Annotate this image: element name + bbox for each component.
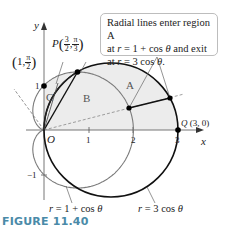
point-1-pi-over-2-label: (1,π2) [12, 54, 36, 71]
x-axis-label: x [201, 136, 206, 147]
point-P-label: P(32,π3) [52, 36, 84, 53]
figure-caption: FIGURE 11.40 [2, 215, 89, 228]
region-A-label: A [126, 80, 134, 91]
y-tick-label-neg1: −1 [27, 171, 37, 180]
origin-label: O [47, 134, 55, 145]
y-tick-label-1: 1 [35, 82, 40, 91]
y-axis-label: y [34, 20, 39, 31]
point-enter [126, 105, 131, 110]
point-P-name: P [52, 37, 59, 49]
point-exit [167, 95, 172, 100]
region-C-label: C [46, 92, 53, 103]
point-P [75, 69, 81, 75]
circle-label: r = 3 cos θ [138, 204, 183, 215]
y-axis-arrow-icon [41, 22, 47, 30]
point-1-pi-over-2 [41, 83, 47, 89]
callout-line-3: at r = 3 cos θ. [107, 55, 217, 68]
point-Q [175, 127, 181, 133]
dashed-ray-upper-left [14, 89, 44, 130]
x-tick-label-2: 2 [131, 136, 136, 145]
x-tick-label-1: 1 [86, 136, 91, 145]
point-Q-label: Q (3, 0) [181, 119, 209, 128]
region-B-label: B [83, 93, 90, 104]
x-tick-label-3: 3 [175, 136, 180, 145]
callout-box: Radial lines enter region A at r = 1 + c… [100, 13, 218, 56]
callout-line-1: Radial lines enter region A [107, 16, 217, 42]
callout-line-2: at r = 1 + cos θ and exit [107, 42, 217, 55]
cardioid-label: r = 1 + cos θ [49, 204, 102, 215]
circle-label-pointer [147, 187, 155, 203]
cardioid-label-pointer [66, 186, 72, 203]
P-r-fraction: 32 [64, 36, 70, 53]
